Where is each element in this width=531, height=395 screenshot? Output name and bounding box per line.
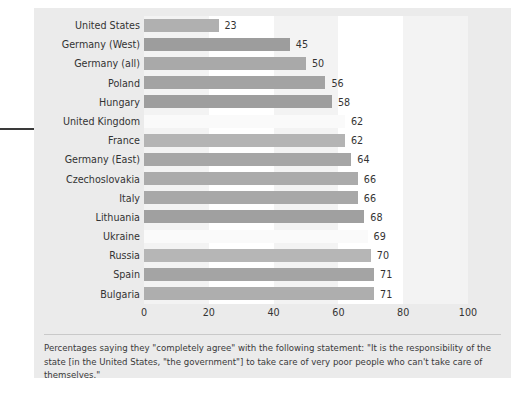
category-label: Russia: [109, 246, 140, 265]
bar-row: United States23: [34, 16, 511, 35]
category-label: Lithuania: [96, 208, 140, 227]
bar: [144, 134, 345, 147]
bar-row: Germany (West)45: [34, 35, 511, 54]
bar-row: Poland56: [34, 74, 511, 93]
bar-value-label: 56: [331, 74, 343, 93]
bar: [144, 230, 368, 243]
x-axis-tick-label: 0: [141, 307, 147, 318]
category-label: Spain: [113, 265, 140, 284]
bar-row: Ukraine69: [34, 227, 511, 246]
bar: [144, 191, 358, 204]
x-axis-tick-label: 60: [332, 307, 344, 318]
bar-value-label: 64: [357, 150, 369, 169]
bar-track: [144, 287, 374, 300]
bar: [144, 268, 374, 281]
bar-track: [144, 268, 374, 281]
bar-value-label: 68: [370, 208, 382, 227]
bar-value-label: 62: [351, 112, 363, 131]
category-label: Italy: [119, 189, 140, 208]
bar-track: [144, 210, 364, 223]
bar: [144, 287, 374, 300]
bar: [144, 38, 290, 51]
bar-row: Czechoslovakia66: [34, 170, 511, 189]
bar-value-label: 66: [364, 170, 376, 189]
bar-track: [144, 249, 371, 262]
x-axis-tick-label: 80: [397, 307, 409, 318]
category-label: France: [108, 131, 140, 150]
bar-row-list: United States23Germany (West)45Germany (…: [34, 16, 511, 304]
bar: [144, 95, 332, 108]
left-margin-rule: [0, 128, 36, 130]
category-label: United States: [75, 16, 140, 35]
category-label: Ukraine: [103, 227, 140, 246]
bar-row: United Kingdom62: [34, 112, 511, 131]
bar-track: [144, 76, 325, 89]
bar-value-label: 58: [338, 93, 350, 112]
bar: [144, 76, 325, 89]
bar-row: Germany (East)64: [34, 150, 511, 169]
x-axis-tick-label: 40: [267, 307, 279, 318]
bar-value-label: 71: [380, 265, 392, 284]
bar-value-label: 69: [374, 227, 386, 246]
bar-value-label: 45: [296, 35, 308, 54]
bar-value-label: 50: [312, 54, 324, 73]
bar-row: Russia70: [34, 246, 511, 265]
bar-track: [144, 19, 219, 32]
category-label: Poland: [108, 74, 140, 93]
bar-row: Hungary58: [34, 93, 511, 112]
bar-value-label: 62: [351, 131, 363, 150]
bar: [144, 172, 358, 185]
bar-track: [144, 172, 358, 185]
chart-caption: Percentages saying they "completely agre…: [44, 342, 496, 383]
bar: [144, 19, 219, 32]
x-axis: 020406080100: [144, 304, 468, 324]
bar-track: [144, 95, 332, 108]
bar-value-label: 71: [380, 285, 392, 304]
x-axis-tick-label: 100: [459, 307, 477, 318]
bar-row: Italy66: [34, 189, 511, 208]
bar-row: Bulgaria71: [34, 285, 511, 304]
bar-track: [144, 115, 345, 128]
bar-value-label: 66: [364, 189, 376, 208]
bar: [144, 115, 345, 128]
category-label: Czechoslovakia: [66, 170, 140, 189]
category-label: Germany (all): [74, 54, 140, 73]
bar-track: [144, 38, 290, 51]
bar-row: Germany (all)50: [34, 54, 511, 73]
bar-track: [144, 153, 351, 166]
bar-track: [144, 230, 368, 243]
bar-track: [144, 134, 345, 147]
bar: [144, 210, 364, 223]
caption-divider: [44, 334, 501, 335]
category-label: United Kingdom: [63, 112, 140, 131]
bar: [144, 57, 306, 70]
bar-value-label: 23: [225, 16, 237, 35]
bar-track: [144, 191, 358, 204]
bar-track: [144, 57, 306, 70]
bar-row: Lithuania68: [34, 208, 511, 227]
bar-chart: United States23Germany (West)45Germany (…: [34, 8, 511, 323]
bar-row: France62: [34, 131, 511, 150]
category-label: Germany (West): [62, 35, 140, 54]
bar-value-label: 70: [377, 246, 389, 265]
bar-row: Spain71: [34, 265, 511, 284]
bar: [144, 153, 351, 166]
bar: [144, 249, 371, 262]
figure-panel: United States23Germany (West)45Germany (…: [34, 8, 511, 378]
category-label: Germany (East): [65, 150, 140, 169]
category-label: Bulgaria: [100, 285, 140, 304]
category-label: Hungary: [99, 93, 140, 112]
x-axis-tick-label: 20: [203, 307, 215, 318]
